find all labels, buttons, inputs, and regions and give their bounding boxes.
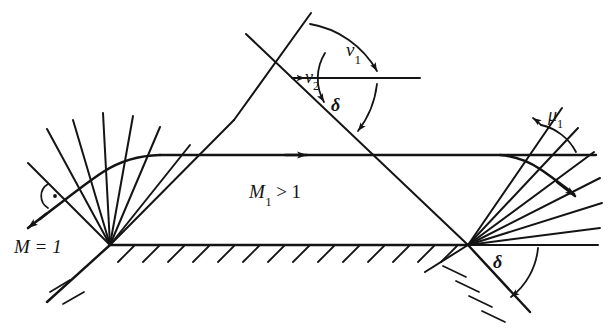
label-region-mach-subscript: 1	[265, 194, 272, 209]
angle-arc-delta-top	[358, 84, 377, 131]
label-delta-top-symbol: δ	[331, 95, 340, 115]
label-delta-bottom: δ	[493, 253, 502, 271]
label-upstream-mach-text: M = 1	[14, 236, 62, 257]
label-nu2-subscript: 2	[313, 79, 319, 93]
label-region-mach-symbol: M	[249, 181, 265, 202]
expansion-fan-diagram: M = 1 M1>1 ν1 ν2 δ μ1 δ	[0, 0, 609, 328]
label-nu1-subscript: 1	[354, 52, 360, 67]
expansion-fan-left	[47, 113, 190, 245]
diagram-canvas	[0, 0, 609, 328]
upstream-angle-marker	[41, 184, 57, 208]
label-mu1-symbol: μ	[548, 105, 557, 125]
characteristic-line-left	[234, 13, 311, 120]
label-delta-top: δ	[331, 96, 340, 114]
label-nu1: ν1	[346, 40, 361, 64]
label-region-mach: M1>1	[249, 182, 302, 206]
wall-hatching-horizontal	[118, 246, 457, 262]
label-nu2-symbol: ν	[305, 67, 313, 87]
label-upstream-mach: M = 1	[14, 237, 62, 256]
compression-fan-right	[468, 108, 602, 245]
label-mu1-subscript: 1	[557, 117, 563, 131]
angle-arc-delta-bottom	[511, 248, 538, 297]
label-nu2: ν2	[305, 68, 319, 90]
label-region-mach-value: 1	[292, 181, 302, 202]
label-mu1: μ1	[548, 106, 563, 128]
label-region-mach-relation: >	[272, 181, 291, 202]
label-delta-bottom-symbol: δ	[493, 252, 502, 272]
